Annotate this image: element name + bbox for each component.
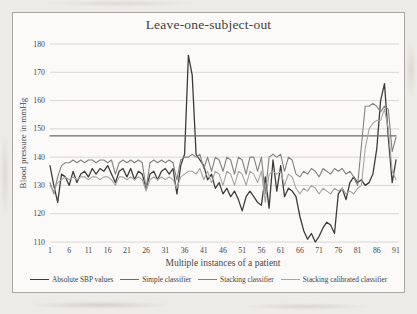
svg-text:16: 16: [104, 246, 112, 255]
legend-item-stacking-classifier: Stacking classifier: [198, 275, 274, 284]
svg-text:21: 21: [123, 246, 131, 255]
svg-text:66: 66: [296, 246, 304, 255]
svg-text:71: 71: [315, 246, 323, 255]
legend-item-stacking-calibrated: Stacking calibrated classifier: [281, 275, 387, 284]
x-axis-title: Multiple instances of a patient: [165, 258, 280, 268]
legend-label: Stacking classifier: [220, 275, 274, 284]
svg-text:76: 76: [334, 246, 342, 255]
svg-text:160: 160: [33, 96, 45, 105]
line-swatch-icon: [198, 279, 217, 280]
svg-text:110: 110: [34, 238, 46, 247]
svg-text:150: 150: [33, 124, 45, 133]
chart-title: Leave-one-subject-out: [12, 17, 405, 33]
svg-text:26: 26: [142, 246, 150, 255]
svg-text:11: 11: [85, 246, 93, 255]
svg-text:170: 170: [33, 68, 45, 77]
legend-label: Simple classifier: [142, 275, 191, 284]
svg-text:120: 120: [33, 209, 45, 218]
y-axis-title: Blood pressure in mmHg: [18, 98, 28, 189]
line-swatch-icon: [281, 279, 300, 280]
svg-text:51: 51: [238, 246, 246, 255]
svg-text:41: 41: [200, 246, 208, 255]
scanned-page: { "title": "Leave-one-subject-out", "axe…: [0, 0, 417, 314]
svg-text:86: 86: [373, 246, 381, 255]
svg-text:56: 56: [258, 246, 266, 255]
svg-text:1: 1: [48, 246, 52, 255]
svg-text:130: 130: [33, 181, 45, 190]
svg-text:36: 36: [181, 246, 189, 255]
line-swatch-icon: [120, 279, 139, 280]
svg-text:6: 6: [67, 246, 71, 255]
svg-text:180: 180: [33, 40, 45, 49]
svg-text:91: 91: [392, 246, 400, 255]
svg-text:140: 140: [33, 153, 45, 162]
svg-text:46: 46: [219, 246, 227, 255]
chart-legend: Absolute SBP values Simple classifier St…: [14, 275, 403, 284]
svg-text:81: 81: [354, 246, 362, 255]
svg-text:61: 61: [277, 246, 285, 255]
legend-item-simple-classifier: Simple classifier: [120, 275, 191, 284]
legend-label: Absolute SBP values: [52, 275, 113, 284]
legend-label: Stacking calibrated classifier: [303, 275, 387, 284]
legend-item-absolute-sbp: Absolute SBP values: [30, 275, 113, 284]
line-swatch-icon: [30, 279, 49, 280]
svg-text:31: 31: [161, 246, 169, 255]
